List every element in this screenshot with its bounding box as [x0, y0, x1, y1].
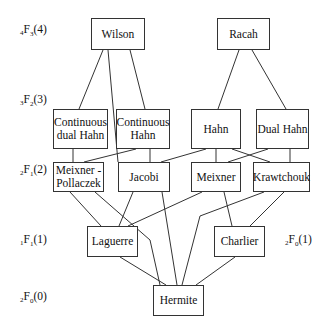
- edge-racah-hahn: [218, 50, 239, 109]
- edge-mp-laguerre: [70, 192, 101, 226]
- edge-hahn-kraw: [232, 149, 270, 162]
- node-charlier: Charlier: [214, 226, 265, 257]
- level-label-l4: 4F3(4): [20, 23, 47, 38]
- edge-hahn-jacobi: [161, 149, 206, 162]
- level-label-l1: 1F1(1): [20, 233, 47, 248]
- node-hahn: Hahn: [191, 109, 241, 149]
- node-label: Charlier: [221, 235, 259, 248]
- edge-meixner-laguerre: [128, 192, 202, 226]
- node-label: Racah: [229, 28, 258, 41]
- node-laguerre: Laguerre: [87, 226, 138, 257]
- node-label: Hermite: [160, 294, 198, 307]
- edge-racah-dhahn: [252, 50, 286, 109]
- node-label: Laguerre: [92, 235, 134, 248]
- edge-chahn-mp: [84, 149, 136, 162]
- node-chahn: Continuous Hahn: [116, 109, 170, 149]
- node-label: Jacobi: [129, 171, 158, 184]
- edge-kraw-charlier: [250, 192, 284, 226]
- node-kraw: Krawtchouk: [253, 162, 310, 192]
- level-label-l1b: 2F0(1): [285, 233, 312, 248]
- node-label: Hahn: [204, 123, 229, 136]
- node-racah: Racah: [217, 18, 270, 50]
- level-label-l2: 2F1(2): [20, 163, 47, 178]
- node-label: Dual Hahn: [257, 123, 307, 136]
- node-label: Continuous Hahn: [116, 116, 169, 142]
- node-wilson: Wilson: [91, 18, 145, 50]
- node-dhahn: Dual Hahn: [256, 109, 309, 149]
- node-label: Krawtchouk: [253, 171, 310, 184]
- node-meixner: Meixner: [191, 162, 241, 192]
- node-hermite: Hermite: [153, 285, 204, 316]
- level-label-l3: 3F2(3): [20, 93, 47, 108]
- node-mp: Meixner - Pollaczek: [53, 162, 104, 192]
- edge-jacobi-laguerre: [119, 192, 133, 226]
- edge-wilson-cdhahn: [79, 50, 103, 109]
- edge-meixner-charlier: [224, 192, 232, 226]
- node-label: Meixner: [197, 171, 236, 184]
- edge-wilson-chahn: [130, 50, 145, 109]
- edge-charlier-hermite: [196, 257, 235, 285]
- level-label-l0: 2F0(0): [20, 290, 47, 305]
- node-label: Meixner - Pollaczek: [54, 164, 103, 190]
- edge-jacobi-hermite: [162, 192, 177, 285]
- node-jacobi: Jacobi: [118, 162, 170, 192]
- node-label: Wilson: [102, 28, 135, 41]
- edge-laguerre-hermite: [120, 257, 166, 285]
- node-cdhahn: Continuous dual Hahn: [53, 109, 108, 149]
- edge-dhahn-meixner: [228, 149, 268, 162]
- node-label: Continuous dual Hahn: [54, 116, 107, 142]
